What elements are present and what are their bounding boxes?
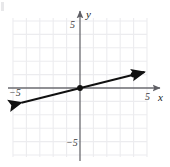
- axis-lines: [8, 11, 160, 161]
- y-tick-label-neg5: −5: [66, 138, 78, 148]
- y-axis-label: y: [86, 9, 91, 20]
- coordinate-graph-figure: y x 5 −5 5 −5: [0, 0, 170, 167]
- y-tick-label-5: 5: [70, 20, 75, 30]
- x-tick-label-5: 5: [145, 92, 150, 102]
- x-tick-label-neg5: −5: [9, 88, 21, 98]
- graph-canvas: [0, 0, 170, 167]
- data-point-origin: [77, 85, 83, 91]
- data-point-4-1: [131, 72, 137, 78]
- x-axis-label: x: [158, 92, 163, 103]
